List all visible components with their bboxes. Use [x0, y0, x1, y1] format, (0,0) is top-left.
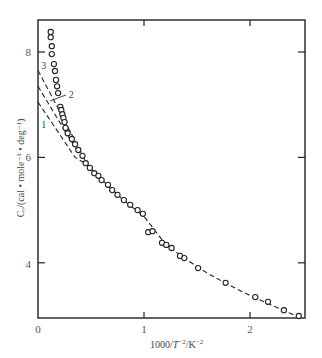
data-point: [110, 188, 115, 193]
y-tick-6: 6: [26, 151, 32, 163]
data-point: [128, 202, 133, 207]
data-point: [164, 242, 169, 247]
data-point: [69, 136, 74, 141]
data-point: [99, 178, 104, 183]
data-point: [121, 198, 126, 203]
plot-frame: [38, 20, 305, 318]
data-point: [62, 120, 67, 125]
data-point: [296, 313, 301, 318]
data-point: [115, 192, 120, 197]
data-point: [55, 84, 60, 89]
data-point: [73, 142, 78, 147]
x-tick-2: 2: [247, 323, 253, 335]
data-point: [135, 208, 140, 213]
data-point: [223, 280, 228, 285]
curve-label-1: 1: [41, 119, 46, 130]
data-point: [140, 211, 145, 216]
axis-ticks: [38, 20, 305, 318]
data-point: [87, 165, 92, 170]
cv-vs-inverse-t-squared-chart: 0 1 2 4 6 8 1000/T−2/K−2 Cᵥ/(cal • mole⁻…: [0, 0, 322, 358]
data-point: [52, 68, 57, 73]
data-point: [83, 161, 88, 166]
data-point: [196, 266, 201, 271]
curve-label-3: 3: [41, 60, 46, 71]
data-point: [80, 153, 85, 158]
data-point: [53, 77, 58, 82]
tick-labels: 0 1 2 4 6 8: [26, 46, 253, 335]
data-point: [169, 245, 174, 250]
y-axis-title: Cᵥ/(cal • mole⁻¹ • deg⁻¹): [15, 119, 27, 218]
dashed-curves: [38, 70, 299, 317]
dashed-curve-fit: [86, 163, 299, 317]
data-point: [49, 52, 54, 57]
data-point: [48, 35, 53, 40]
y-tick-8: 8: [26, 46, 32, 58]
data-point: [49, 44, 54, 49]
data-point: [150, 229, 155, 234]
data-point: [56, 91, 61, 96]
data-point: [265, 299, 270, 304]
data-point: [105, 182, 110, 187]
data-point: [65, 131, 70, 136]
data-point: [63, 125, 68, 130]
x-tick-0: 0: [35, 323, 41, 335]
x-axis-title: 1000/T−2/K−2: [150, 338, 204, 350]
x-tick-1: 1: [141, 323, 147, 335]
data-point: [281, 308, 286, 313]
curve-label-2: 2: [69, 89, 74, 100]
data-point: [182, 256, 187, 261]
data-point: [48, 29, 53, 34]
data-point: [253, 295, 258, 300]
data-point: [51, 62, 56, 67]
data-points: [48, 29, 301, 318]
y-tick-4: 4: [26, 258, 32, 270]
data-point: [76, 147, 81, 152]
